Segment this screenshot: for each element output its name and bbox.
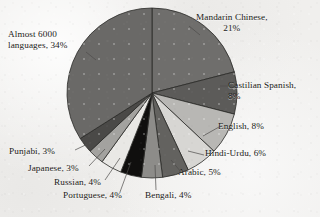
slice-label-castilian-line1: Castilian Spanish, <box>228 80 296 91</box>
slice-label-mandarin-line2: 21% <box>196 23 268 34</box>
slice-label-almost-line1: Almost 6000 <box>8 29 68 40</box>
slice-label-japanese: Japanese, 3% <box>28 163 79 174</box>
slice-label-bengali: Bengali, 4% <box>145 190 192 201</box>
slice-label-hindi-urdu: Hindi-Urdu, 6% <box>205 148 266 159</box>
pie-chart-figure: Mandarin Chinese, 21% Almost 6000 langua… <box>0 0 320 217</box>
slice-label-russian: Russian, 4% <box>54 177 101 188</box>
slice-label-arabic: Arabic, 5% <box>178 167 221 178</box>
slice-label-almost-6000-languages: Almost 6000 languages, 34% <box>8 29 68 51</box>
slice-label-english: English, 8% <box>218 121 264 132</box>
slice-label-punjabi: Punjabi, 3% <box>9 146 55 157</box>
slice-label-castilian-spanish: Castilian Spanish, 8% <box>228 80 296 102</box>
slice-label-mandarin-line1: Mandarin Chinese, <box>196 12 268 23</box>
slice-label-portuguese: Portuguese, 4% <box>63 190 122 201</box>
slice-label-mandarin-chinese: Mandarin Chinese, 21% <box>196 12 268 34</box>
slice-label-almost-line2: languages, 34% <box>8 40 68 51</box>
slice-label-castilian-line2: 8% <box>228 91 296 102</box>
